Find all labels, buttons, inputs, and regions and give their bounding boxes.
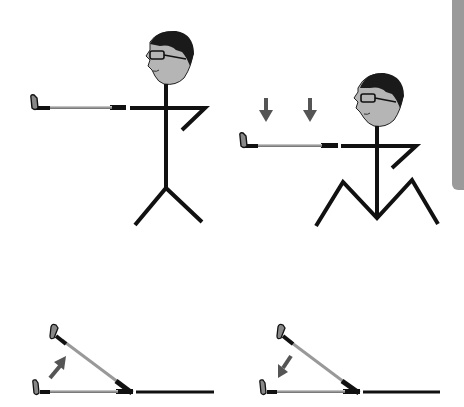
golf-club-icon bbox=[31, 95, 126, 110]
head-icon bbox=[354, 73, 404, 126]
club-lower-diagram bbox=[260, 324, 440, 394]
club-raise-diagram bbox=[33, 324, 214, 394]
head-icon bbox=[146, 31, 194, 84]
squatting-figure bbox=[240, 73, 438, 226]
down-left-arrow-icon bbox=[278, 356, 291, 378]
golf-diagram bbox=[0, 0, 464, 407]
up-arrow-icon bbox=[50, 356, 66, 378]
down-arrow-icon bbox=[303, 98, 317, 122]
standing-figure bbox=[31, 31, 205, 225]
golf-club-icon bbox=[240, 133, 338, 148]
diagram-canvas bbox=[0, 0, 464, 407]
down-arrow-icon bbox=[259, 98, 273, 122]
